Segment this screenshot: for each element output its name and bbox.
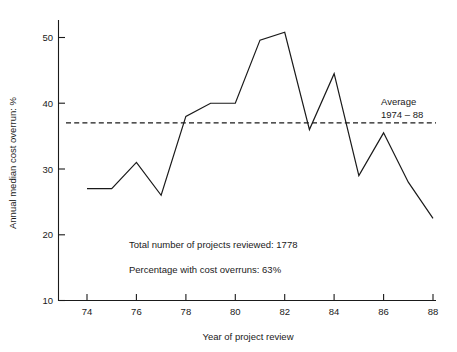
- x-tick-label-78: 78: [181, 306, 192, 317]
- x-tick-label-82: 82: [279, 306, 290, 317]
- average-label-line2: 1974 – 88: [381, 109, 423, 120]
- axis-lines: [59, 20, 437, 301]
- average-label-line1: Average: [381, 96, 416, 107]
- y-axis-ticks: [59, 38, 66, 301]
- y-tick-label-50: 50: [42, 32, 53, 43]
- y-tick-label-10: 10: [42, 295, 53, 306]
- x-tick-label-80: 80: [230, 306, 241, 317]
- x-tick-label-84: 84: [329, 306, 340, 317]
- x-axis-tick-labels: 74 76 78 80 82 84 86 88: [82, 306, 439, 317]
- y-tick-label-40: 40: [42, 98, 53, 109]
- y-tick-label-30: 30: [42, 164, 53, 175]
- x-axis-title: Year of project review: [202, 331, 293, 342]
- x-tick-label-88: 88: [428, 306, 439, 317]
- data-series-line: [87, 32, 433, 218]
- annotation-percentage-overruns: Percentage with cost overruns: 63%: [129, 264, 282, 275]
- x-tick-label-76: 76: [131, 306, 142, 317]
- y-axis-tick-labels: 10 20 30 40 50: [42, 32, 53, 306]
- x-tick-label-74: 74: [82, 306, 93, 317]
- line-chart: 10 20 30 40 50 74 76 78 80 82 84 86 88: [0, 0, 457, 352]
- x-axis-ticks: [87, 294, 433, 301]
- x-tick-label-86: 86: [378, 306, 389, 317]
- annotation-total-projects: Total number of projects reviewed: 1778: [129, 239, 297, 250]
- y-tick-label-20: 20: [42, 229, 53, 240]
- chart-figure: 10 20 30 40 50 74 76 78 80 82 84 86 88: [0, 0, 457, 352]
- y-axis-title: Annual median cost overrun: %: [7, 96, 18, 229]
